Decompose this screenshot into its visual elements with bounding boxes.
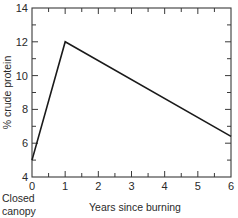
x-tick-label: 5 — [195, 180, 201, 192]
x-axis-tick-labels: 0123456 — [29, 180, 234, 192]
closed-canopy-annotation-line2: canopy — [2, 205, 37, 217]
x-tick-label: 2 — [95, 180, 101, 192]
y-tick-label: 12 — [16, 36, 28, 48]
x-tick-label: 1 — [62, 180, 68, 192]
y-axis-ticks — [32, 25, 231, 160]
x-tick-label: 0 — [29, 180, 35, 192]
crude-protein-line — [32, 42, 231, 160]
y-tick-label: 4 — [22, 171, 28, 183]
closed-canopy-annotation-line1: Closed — [2, 192, 35, 204]
plot-border — [32, 8, 231, 177]
x-tick-label: 4 — [162, 180, 168, 192]
plot-frame — [32, 8, 231, 177]
line-chart: 0123456 468101214 % crude protein Years … — [0, 0, 238, 218]
y-axis-tick-labels: 468101214 — [16, 2, 28, 183]
y-tick-label: 6 — [22, 137, 28, 149]
y-axis-title: % crude protein — [1, 56, 13, 130]
x-axis-ticks — [49, 8, 215, 177]
y-tick-label: 10 — [16, 70, 28, 82]
x-tick-label: 3 — [128, 180, 134, 192]
y-tick-label: 8 — [22, 103, 28, 115]
x-axis-title: Years since burning — [89, 201, 181, 213]
x-tick-label: 6 — [228, 180, 234, 192]
y-tick-label: 14 — [16, 2, 28, 14]
